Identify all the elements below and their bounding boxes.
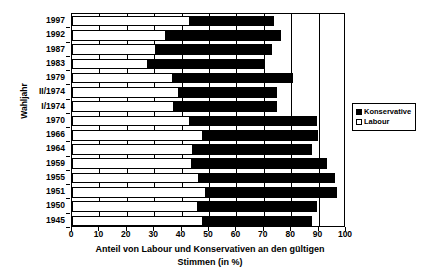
bar-segment-labour bbox=[72, 158, 192, 169]
bar-segment-labour bbox=[72, 173, 199, 184]
y-axis-tick bbox=[66, 27, 70, 28]
x-axis-title-line1: Anteil von Labour und Konservativen an d… bbox=[40, 243, 380, 256]
legend-entry-konservative: Konservative bbox=[356, 107, 411, 117]
x-axis-tick-label: 70 bbox=[258, 229, 267, 239]
bar-segment-konservative bbox=[190, 116, 317, 127]
y-axis-tick bbox=[66, 127, 70, 128]
bar-segment-konservative bbox=[203, 216, 312, 227]
bar-segment-labour bbox=[72, 187, 206, 198]
bar-segment-labour bbox=[72, 73, 173, 84]
bar-segment-konservative bbox=[206, 187, 338, 198]
x-axis-tick-label: 50 bbox=[203, 229, 212, 239]
legend-swatch-konservative-icon bbox=[356, 109, 362, 115]
bar-row bbox=[72, 71, 344, 85]
legend-label-konservative: Konservative bbox=[364, 107, 411, 117]
legend-swatch-labour-icon bbox=[356, 119, 362, 125]
y-axis-tick bbox=[66, 184, 70, 185]
bar-row bbox=[72, 28, 344, 42]
bar-segment-labour bbox=[72, 30, 166, 41]
legend-entry-labour: Labour bbox=[356, 117, 411, 127]
y-axis-tick-label: 1959 bbox=[46, 156, 65, 170]
x-axis-tick-label: 30 bbox=[148, 229, 157, 239]
y-axis-tick-label: 1970 bbox=[46, 113, 65, 127]
bar-segment-konservative bbox=[190, 16, 274, 27]
y-axis-tick-label: 1966 bbox=[46, 127, 65, 141]
y-axis-tick-label: 1997 bbox=[46, 13, 65, 27]
bar-row bbox=[72, 14, 344, 28]
plot-area bbox=[71, 13, 345, 227]
y-axis-tick-label: 1951 bbox=[46, 184, 65, 198]
y-axis-tick-label: 1987 bbox=[46, 42, 65, 56]
y-axis-tick-label: 1964 bbox=[46, 141, 65, 155]
bar-segment-konservative bbox=[174, 101, 278, 112]
bar-row bbox=[72, 157, 344, 171]
y-axis-tick-label: II/1974 bbox=[39, 84, 65, 98]
x-axis-tick-label: 80 bbox=[285, 229, 294, 239]
x-axis-tick-label: 20 bbox=[121, 229, 130, 239]
legend-label-labour: Labour bbox=[364, 117, 389, 127]
bar-row bbox=[72, 185, 344, 199]
bar-segment-konservative bbox=[166, 30, 281, 41]
bar-row bbox=[72, 214, 344, 228]
y-axis-tick-label: 1945 bbox=[46, 213, 65, 227]
x-axis-labels: 0102030405060708090100 bbox=[71, 229, 345, 243]
bar-row bbox=[72, 128, 344, 142]
y-axis-tick bbox=[66, 141, 70, 142]
bar-segment-labour bbox=[72, 201, 198, 212]
bar-segment-labour bbox=[72, 130, 203, 141]
bar-segment-konservative bbox=[193, 144, 312, 155]
bar-row bbox=[72, 85, 344, 99]
bar-row bbox=[72, 171, 344, 185]
bar-segment-labour bbox=[72, 216, 203, 227]
y-axis-tick bbox=[66, 99, 70, 100]
x-axis-tick-label: 90 bbox=[313, 229, 322, 239]
y-axis-tick bbox=[66, 227, 70, 228]
y-axis-tick bbox=[66, 170, 70, 171]
y-axis-tick-label: 1955 bbox=[46, 170, 65, 184]
bar-segment-labour bbox=[72, 87, 179, 98]
x-axis-tick-label: 100 bbox=[338, 229, 352, 239]
bar-segment-konservative bbox=[198, 201, 317, 212]
y-axis-tick-label: 1992 bbox=[46, 27, 65, 41]
bar-segment-konservative bbox=[148, 59, 264, 70]
x-axis-title: Anteil von Labour und Konservativen an d… bbox=[40, 243, 380, 268]
x-axis-tick-label: 40 bbox=[176, 229, 185, 239]
bar-segment-labour bbox=[72, 101, 174, 112]
bar-row bbox=[72, 57, 344, 71]
y-axis-tick-label: 1979 bbox=[46, 70, 65, 84]
bar-segment-konservative bbox=[199, 173, 335, 184]
bar-segment-konservative bbox=[192, 158, 327, 169]
y-axis-tick bbox=[66, 113, 70, 114]
x-axis-tick-label: 0 bbox=[69, 229, 74, 239]
bar-segment-konservative bbox=[203, 130, 318, 141]
y-axis-tick bbox=[66, 198, 70, 199]
bar-row bbox=[72, 114, 344, 128]
y-axis-tick bbox=[66, 42, 70, 43]
legend: Konservative Labour bbox=[352, 103, 416, 131]
y-axis-tick bbox=[66, 56, 70, 57]
bar-rows bbox=[72, 14, 344, 226]
bar-segment-labour bbox=[72, 16, 190, 27]
bar-segment-labour bbox=[72, 144, 193, 155]
y-axis-tick bbox=[66, 213, 70, 214]
y-axis-tick bbox=[66, 156, 70, 157]
x-axis-title-line2: Stimmen (in %) bbox=[40, 256, 380, 269]
bar-row bbox=[72, 100, 344, 114]
y-axis-tick bbox=[66, 84, 70, 85]
bar-segment-labour bbox=[72, 59, 148, 70]
x-axis-tick-label: 10 bbox=[94, 229, 103, 239]
y-axis-tick bbox=[66, 70, 70, 71]
bar-row bbox=[72, 199, 344, 213]
bar-segment-labour bbox=[72, 116, 190, 127]
bar-row bbox=[72, 142, 344, 156]
bar-row bbox=[72, 43, 344, 57]
y-axis-tick-label: 1950 bbox=[46, 198, 65, 212]
y-axis-tick-label: I/1974 bbox=[41, 99, 65, 113]
y-axis-labels: 19971992198719831979II/1974I/19741970196… bbox=[0, 13, 69, 227]
y-axis-tick-label: 1983 bbox=[46, 56, 65, 70]
bar-segment-konservative bbox=[156, 44, 272, 55]
bar-segment-labour bbox=[72, 44, 156, 55]
bar-segment-konservative bbox=[173, 73, 293, 84]
bar-chart: Wahljahr 19971992198719831979II/1974I/19… bbox=[0, 0, 441, 274]
bar-segment-konservative bbox=[179, 87, 277, 98]
